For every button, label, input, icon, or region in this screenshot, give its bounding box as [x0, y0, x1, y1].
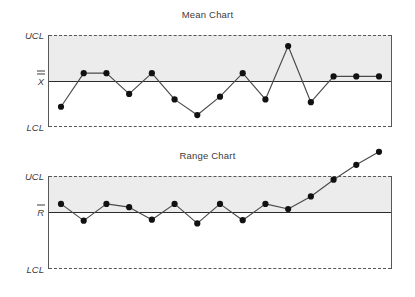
data-point [171, 201, 177, 207]
data-point [330, 177, 336, 183]
range-chart-title: Range Chart [0, 150, 415, 161]
range-chart: Range Chart UCL R LCL [0, 140, 415, 297]
data-point [285, 206, 291, 212]
range-lcl-label: LCL [27, 264, 44, 275]
data-point [240, 217, 246, 223]
data-point [240, 70, 246, 76]
range-chart-series [49, 176, 391, 269]
range-chart-plot-area [48, 176, 392, 269]
data-point [262, 201, 268, 207]
data-point [308, 193, 314, 199]
range-center-label-text: R [37, 207, 44, 218]
data-point [376, 73, 382, 79]
data-point [81, 70, 87, 76]
data-point [103, 201, 109, 207]
data-point [194, 112, 200, 118]
range-ucl-label: UCL [25, 171, 44, 182]
range-center-label: R [37, 207, 44, 218]
data-point [376, 149, 382, 155]
data-point [126, 204, 132, 210]
range-chart-axis-labels: UCL R LCL [0, 176, 44, 269]
data-point [262, 96, 268, 102]
control-chart-figure: Mean Chart UCL X LCL Range Chart UCL R L… [0, 0, 415, 297]
data-point [126, 91, 132, 97]
data-point [58, 201, 64, 207]
data-point [217, 201, 223, 207]
data-point [58, 104, 64, 110]
data-point [285, 43, 291, 49]
mean-chart: Mean Chart UCL X LCL [0, 0, 415, 148]
data-point [353, 73, 359, 79]
data-point [149, 217, 155, 223]
data-point [308, 99, 314, 105]
mean-ucl-label: UCL [25, 30, 44, 41]
mean-chart-title: Mean Chart [0, 9, 415, 20]
data-point [330, 73, 336, 79]
mean-lcl-label: LCL [27, 122, 44, 133]
data-point [171, 96, 177, 102]
data-point [353, 162, 359, 168]
data-point [194, 220, 200, 226]
mean-chart-plot-area [48, 35, 392, 127]
mean-chart-series [49, 35, 391, 127]
mean-chart-axis-labels: UCL X LCL [0, 35, 44, 127]
data-point [149, 70, 155, 76]
data-point [103, 70, 109, 76]
mean-center-label: X [38, 76, 44, 87]
data-point [81, 218, 87, 224]
data-point [217, 94, 223, 100]
mean-center-label-text: X [38, 76, 44, 87]
